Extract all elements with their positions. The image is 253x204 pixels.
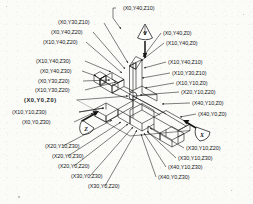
- label-x0y40z10: (X0,Y40,Z10): [123, 5, 154, 11]
- axis-letter-z: Z: [83, 126, 88, 132]
- label-x10y40z30: (X10,Y40,Z30): [36, 58, 70, 64]
- label-x0y30z10: (X0,Y30,Z10): [58, 19, 89, 25]
- scan-speck: [18, 196, 20, 198]
- label-x10y10z30: (X10,Y10,Z30): [12, 109, 46, 115]
- label-x20y10z20: (X20,Y10,Z20): [181, 89, 215, 95]
- label-x20y0z30: (X20,Y0,Z30): [52, 153, 83, 159]
- label-x30y0z30: (X30,Y0,Z30): [71, 173, 102, 179]
- label-x30y10z20: (X30,Y10,Z20): [186, 145, 220, 151]
- label-x10y40z20: (X10,Y40,Z20): [43, 39, 77, 45]
- label-x10y40z0: (X10,Y40,Z0): [166, 40, 197, 46]
- label-x20y0z20: (X20,Y0,Z20): [58, 163, 89, 169]
- label-x0y30z20: (X0,Y30,Z20): [38, 78, 69, 84]
- label-x0y40z0: (X0,Y40,Z0): [163, 30, 192, 36]
- diagram-canvas: Y Z X: [0, 0, 253, 204]
- axis-badge-x: X: [183, 120, 210, 141]
- label-origin: (X0,Y0,Z0): [24, 97, 57, 103]
- label-x40y0z0: (X40,Y0,Z0): [198, 111, 227, 117]
- label-x40y10z0: (X40,Y10,Z0): [192, 100, 223, 106]
- label-x20y10z30: (X20,Y10,Z30): [45, 143, 79, 149]
- label-x0y40z20: (X0,Y40,Z20): [51, 29, 82, 35]
- label-x10y30z10: (X10,Y30,Z10): [172, 70, 206, 76]
- label-x10y40z10: (X10,Y40,Z10): [168, 59, 202, 65]
- label-x10y10z0: (X10,Y10,Z0): [176, 80, 207, 86]
- label-x40y0z30: (X40,Y0,Z30): [158, 174, 189, 180]
- label-x0y0z30: (X0,Y0,Z30): [22, 119, 51, 125]
- label-x40y10z30: (X40,Y10,Z30): [168, 164, 202, 170]
- axis-badge-y: Y: [138, 24, 153, 59]
- label-x30y10z30: (X30,Y10,Z30): [178, 155, 212, 161]
- label-x0y40z30: (X0,Y40,Z30): [40, 68, 71, 74]
- label-x30y0z20: (X30,Y0,Z20): [88, 183, 119, 189]
- label-x10y30z20: (X10,Y30,Z20): [35, 87, 69, 93]
